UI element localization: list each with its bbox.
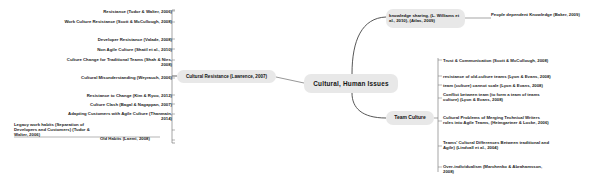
leaf-team-culture-cannot-scale: team (culture) cannot scale (Lyon & Evan…: [443, 83, 551, 88]
leaf-over-individualism: Over-individualism (Marchenko & Abrahams…: [443, 164, 551, 174]
leaf-cultural-misunderstanding: Cultural Misunderstanding (Weyrauch, 200…: [60, 75, 172, 80]
center-node-cultural-human-issues[interactable]: Cultural, Human Issues: [304, 74, 398, 93]
leaf-adapting-customers-agile-culture: Adapting Customers with Agile Culture (T…: [60, 111, 172, 121]
leaf-old-habits: Old Habits (Laemi, 2008): [100, 136, 175, 141]
leaf-legacy-work-habits: Legacy work habits (Separation of Develo…: [14, 122, 100, 137]
mindmap-canvas: Cultural, Human Issues Cultural Resistan…: [0, 0, 608, 188]
leaf-cultural-problems-merging-tech-writers: Cultural Problems of Merging Technical W…: [443, 115, 551, 125]
leaf-work-culture-resistance: Work Culture Resistance (Scott & McCullo…: [60, 19, 172, 24]
leaf-developer-resistance: Developer Resistance (Valade, 2008): [60, 37, 172, 42]
leaf-culture-change-traditional-teams: Culture Change for Traditional Teams (Sh…: [60, 57, 172, 67]
leaf-teams-cultural-differences: Teams' Cultural Differences Between trad…: [443, 140, 551, 150]
leaf-non-agile-culture: Non Agile Culture (Shatil et al., 2010): [60, 47, 172, 52]
leaf-conflict-between-team: Conflict between team (to form a team of…: [443, 92, 551, 102]
branch-node-knowledge-sharing[interactable]: knowledge sharing, (L. Williams et al., …: [386, 9, 465, 28]
leaf-resistance-to-change: Resistance to Change (Kim & Ryoo, 2012): [60, 93, 172, 98]
leaf-culture-clash: Culture Clash (Bagal & Nagappan, 2007): [60, 102, 172, 107]
branch-node-cultural-resistance[interactable]: Cultural Resistance (Lawrence, 2007): [177, 70, 276, 83]
leaf-resistance-tudor-walter: Resistance (Tudor & Walter, 2006): [60, 9, 172, 14]
branch-node-team-culture[interactable]: Team Culture: [386, 111, 434, 125]
leaf-trust-and-communication: Trust & Communication (Scott & McCulloug…: [443, 58, 551, 63]
leaf-people-dependent-knowledge: People dependent Knowledge (Baker, 2009): [491, 12, 601, 17]
leaf-resistance-old-culture-teams: resistance of old-culture teams (Lyon & …: [443, 74, 551, 79]
